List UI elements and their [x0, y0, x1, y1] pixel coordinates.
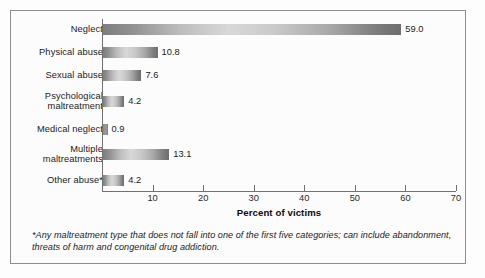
category-label: Medical neglect	[0, 124, 103, 135]
bar[interactable]	[103, 175, 124, 186]
bar-value-label: 0.9	[112, 124, 125, 134]
bar-value-label: 4.2	[128, 175, 141, 185]
bar-value-label: 4.2	[128, 96, 141, 106]
chart-figure: Neglect59.0Physical abuse10.8Sexual abus…	[0, 0, 485, 278]
plot-area: Neglect59.0Physical abuse10.8Sexual abus…	[11, 11, 467, 265]
bar-value-label: 7.6	[145, 70, 158, 80]
category-label: Other abuse*	[0, 175, 103, 186]
category-label: Psychologicalmaltreatment	[0, 91, 103, 112]
bar[interactable]	[103, 96, 124, 107]
category-label: Neglect	[0, 24, 103, 35]
x-axis-tick	[254, 185, 255, 191]
x-axis-tick-label: 70	[451, 193, 461, 203]
bar[interactable]	[103, 124, 108, 135]
bar[interactable]	[103, 24, 401, 35]
category-label-line: Neglect	[0, 24, 103, 35]
bar[interactable]	[103, 149, 169, 160]
x-axis-tick	[153, 185, 154, 191]
category-label-line: Medical neglect	[0, 124, 103, 135]
x-axis-tick-label: 10	[147, 193, 157, 203]
bar-value-label: 10.8	[162, 47, 180, 57]
chart-footnote: *Any maltreatment type that does not fal…	[32, 229, 452, 253]
x-axis-tick	[355, 185, 356, 191]
category-label-line: maltreatment	[0, 101, 103, 112]
x-axis-tick	[304, 185, 305, 191]
x-axis-tick-label: 60	[400, 193, 410, 203]
bar[interactable]	[103, 47, 158, 58]
x-axis-tick	[203, 185, 204, 191]
category-label: Sexual abuse	[0, 70, 103, 81]
y-axis-line	[102, 19, 103, 191]
x-axis-line	[102, 191, 456, 192]
category-label-line: Other abuse*	[0, 175, 103, 186]
x-axis-tick-label: 50	[350, 193, 360, 203]
category-label: Physical abuse	[0, 47, 103, 58]
category-label-line: maltreatments	[0, 154, 103, 165]
category-label-line: Multiple	[0, 144, 103, 155]
x-axis-tick-label: 30	[249, 193, 259, 203]
category-label-line: Psychological	[0, 91, 103, 102]
category-label-line: Sexual abuse	[0, 70, 103, 81]
bar[interactable]	[103, 70, 141, 81]
category-label-line: Physical abuse	[0, 47, 103, 58]
x-axis-tick	[456, 185, 457, 191]
bar-value-label: 13.1	[173, 149, 191, 159]
category-label: Multiplemaltreatments	[0, 144, 103, 165]
x-axis-tick-label: 40	[299, 193, 309, 203]
x-axis-tick-label: 20	[198, 193, 208, 203]
x-axis-tick	[405, 185, 406, 191]
bar-value-label: 59.0	[405, 24, 423, 34]
chart-frame: Neglect59.0Physical abuse10.8Sexual abus…	[10, 10, 466, 264]
x-axis-title: Percent of victims	[102, 207, 456, 218]
